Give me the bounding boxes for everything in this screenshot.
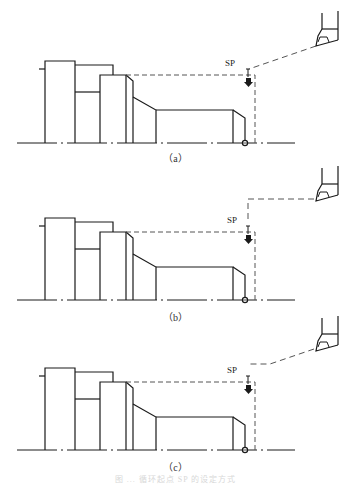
- panel-b: [17, 166, 338, 303]
- figure-caption: 图 ... 循环起点 SP 的设定方式: [0, 473, 351, 484]
- tool-path-a: [249, 46, 316, 69]
- tool-path-c: [250, 349, 314, 364]
- sp-label-b: SP: [227, 215, 237, 225]
- panel-label-c: （c）: [0, 459, 351, 474]
- panel-c: [17, 316, 338, 453]
- sp-label-a: SP: [225, 58, 235, 68]
- panel-label-b: （b）: [0, 309, 351, 324]
- panel-label-a: （a）: [0, 150, 351, 165]
- tool-path-b: [248, 199, 314, 222]
- sp-label-c: SP: [227, 365, 237, 375]
- turning-cycle-diagram: [0, 0, 351, 484]
- panel-a: [17, 11, 338, 146]
